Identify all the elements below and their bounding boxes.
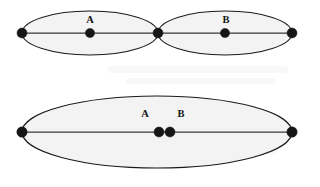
left-endpoint-vertex-bottom <box>17 127 27 137</box>
figure-container: A B A B <box>0 0 320 187</box>
vertex-b-top <box>220 28 229 37</box>
right-endpoint-vertex-bottom <box>287 127 297 137</box>
left-endpoint-vertex <box>17 28 27 38</box>
vertex-b-bottom <box>165 127 175 137</box>
right-endpoint-vertex <box>287 28 297 38</box>
shared-junction-vertex <box>153 28 163 38</box>
vertex-b-label-bottom: B <box>177 108 184 119</box>
vertex-a-top <box>85 28 94 37</box>
graph-figure: A B A B <box>0 0 320 187</box>
bottom-panel: A B <box>17 96 297 168</box>
vertex-a-label-top: A <box>86 14 94 25</box>
vertex-b-label-top: B <box>222 14 229 25</box>
top-panel: A B <box>17 11 297 55</box>
vertex-a-label-bottom: A <box>141 108 149 119</box>
vertex-a-bottom <box>154 127 164 137</box>
